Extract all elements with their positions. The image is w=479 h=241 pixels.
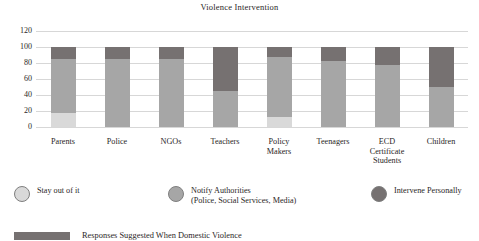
bar-segment	[375, 65, 400, 127]
x-axis-label-line: Students	[373, 156, 401, 165]
chart-legend: Stay out of it Notify Authorities (Polic…	[0, 184, 479, 220]
x-axis-label-line: Certificate	[370, 147, 405, 156]
stacked-bar[interactable]	[105, 47, 130, 127]
bar-slot	[198, 31, 252, 127]
bar-segment	[105, 47, 130, 59]
x-axis-label: Police	[90, 137, 144, 166]
bar-segment	[213, 91, 238, 127]
legend-label: Intervene Personally	[394, 186, 462, 196]
y-tick-label: 0	[2, 123, 32, 131]
x-axis-label-line: Policy	[269, 137, 290, 146]
bar-segment	[267, 117, 292, 127]
stacked-bar[interactable]	[213, 47, 238, 127]
chart-title: Violence Intervention	[0, 2, 479, 12]
legend-label-line2: (Police, Social Services, Media)	[191, 196, 296, 205]
plot-wrapper: 120 100 80 60 40 20 0	[0, 24, 479, 136]
bar-segment	[321, 61, 346, 127]
y-tick-label: 80	[2, 59, 32, 67]
legend-label-line1: Stay out of it	[37, 186, 80, 195]
stacked-bar[interactable]	[429, 47, 454, 127]
legend-label-line1: Intervene Personally	[394, 186, 462, 195]
x-axis-label-line: Parents	[51, 137, 75, 146]
x-axis-label: Teachers	[198, 137, 252, 166]
x-axis-label: Teenagers	[306, 137, 360, 166]
x-axis-label: Children	[414, 137, 468, 166]
y-axis: 120 100 80 60 40 20 0	[0, 31, 32, 127]
bar-segment	[267, 47, 292, 57]
bar-segment	[429, 47, 454, 87]
x-axis-label: Parents	[36, 137, 90, 166]
bar-slot	[306, 31, 360, 127]
y-tick-label: 40	[2, 91, 32, 99]
stacked-bar[interactable]	[267, 47, 292, 127]
x-axis-label: ECDCertificateStudents	[360, 137, 414, 166]
stacked-bar[interactable]	[375, 47, 400, 127]
legend-item-stay-out: Stay out of it	[14, 186, 80, 202]
legend-label: Stay out of it	[37, 186, 80, 196]
legend-item-intervene-personally: Intervene Personally	[371, 186, 462, 202]
bar-slot	[360, 31, 414, 127]
legend-item-notify-authorities: Notify Authorities (Police, Social Servi…	[168, 186, 296, 206]
stacked-bar[interactable]	[321, 47, 346, 127]
x-axis-label-line: Police	[107, 137, 127, 146]
x-axis-label-line: NGOs	[161, 137, 182, 146]
x-axis-label-line: ECD	[379, 137, 395, 146]
bar-segment	[321, 47, 346, 61]
bar-segment	[267, 57, 292, 116]
bar-segment	[51, 47, 76, 59]
bar-slot	[414, 31, 468, 127]
bar-group	[36, 31, 468, 127]
plot-area	[36, 31, 468, 127]
x-axis-label-line: Teachers	[211, 137, 240, 146]
y-tick-label: 60	[2, 75, 32, 83]
bar-segment	[213, 47, 238, 91]
bar-segment	[159, 59, 184, 127]
y-tick-label: 120	[2, 27, 32, 35]
bar-slot	[90, 31, 144, 127]
x-axis-label-line: Makers	[267, 147, 292, 156]
legend-label: Notify Authorities (Police, Social Servi…	[191, 186, 296, 206]
bar-slot	[252, 31, 306, 127]
legend-swatch-icon	[371, 186, 387, 202]
bar-segment	[429, 87, 454, 127]
stacked-bar[interactable]	[51, 47, 76, 127]
bar-segment	[105, 59, 130, 127]
bar-segment	[159, 47, 184, 59]
chart-container: Violence Intervention 120 100 80 60 40 2…	[0, 0, 479, 241]
x-axis-label-line: Children	[427, 137, 456, 146]
footer-caption-row: Responses Suggested When Domestic Violen…	[0, 231, 479, 241]
gridline	[36, 127, 468, 128]
bar-segment	[51, 59, 76, 113]
bar-segment	[375, 47, 400, 65]
footer-caption: Responses Suggested When Domestic Violen…	[82, 231, 242, 241]
bar-slot	[144, 31, 198, 127]
y-tick-label: 20	[2, 107, 32, 115]
bar-slot	[36, 31, 90, 127]
x-axis-label-line: Teenagers	[316, 137, 349, 146]
bar-segment	[51, 113, 76, 127]
legend-label-line1: Notify Authorities	[191, 186, 251, 195]
y-tick-label: 100	[2, 43, 32, 51]
x-axis-label: PolicyMakers	[252, 137, 306, 166]
legend-swatch-icon	[14, 186, 30, 202]
x-axis-labels: ParentsPoliceNGOsTeachersPolicyMakersTee…	[36, 137, 468, 166]
footer-swatch-icon	[14, 232, 70, 240]
legend-swatch-icon	[168, 186, 184, 202]
x-axis-label: NGOs	[144, 137, 198, 166]
stacked-bar[interactable]	[159, 47, 184, 127]
